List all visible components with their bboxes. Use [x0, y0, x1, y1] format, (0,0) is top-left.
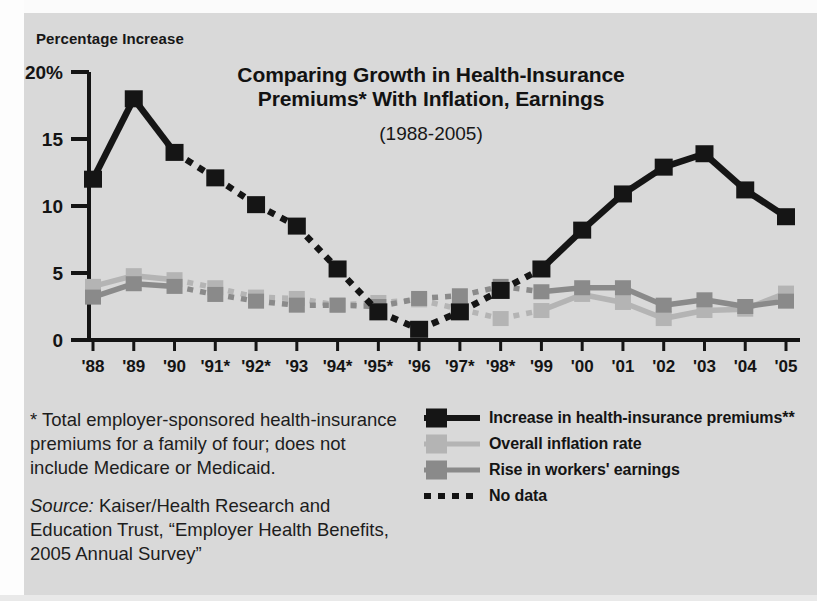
data-point-marker	[410, 321, 428, 338]
data-point-marker	[206, 169, 224, 186]
x-tick-label: '04	[734, 357, 757, 376]
data-point-marker	[329, 260, 347, 277]
x-tick-label: '90	[163, 357, 186, 376]
legend-item[interactable]: No data	[424, 484, 799, 507]
y-tick-label: 5	[52, 263, 63, 284]
data-point-marker	[493, 311, 509, 326]
x-tick-label: '99	[530, 357, 553, 376]
x-tick-label: '05	[775, 357, 798, 376]
legend-item[interactable]: Rise in workers' earnings	[424, 458, 799, 481]
x-tick-label: '93	[285, 357, 308, 376]
y-tick-label: 20%	[25, 62, 63, 83]
legend-label: Rise in workers' earnings	[489, 461, 680, 479]
legend-square-icon	[426, 434, 447, 453]
footnote-text: * Total employer-sponsored health-insura…	[30, 408, 405, 480]
source-label: Source:	[30, 495, 94, 516]
series-inflation	[85, 268, 794, 326]
legend-swatch	[424, 486, 480, 506]
legend-label: Overall inflation rate	[489, 435, 642, 453]
x-tick-label: '96	[408, 357, 431, 376]
legend-square-icon	[426, 460, 447, 479]
chart-legend: Increase in health-insurance premiums**O…	[424, 406, 799, 510]
data-point-marker	[452, 288, 468, 303]
x-tick-label: '00	[571, 357, 594, 376]
source-text: Source: Kaiser/Health Research and Educa…	[30, 494, 405, 566]
data-point-marker	[736, 181, 754, 198]
legend-label: No data	[489, 487, 547, 505]
data-point-marker	[167, 279, 183, 294]
x-tick-label: '92*	[241, 357, 271, 376]
x-tick-label: '03	[693, 357, 716, 376]
data-point-marker	[369, 303, 387, 320]
data-point-marker	[533, 284, 549, 299]
x-tick-label: '94*	[323, 357, 353, 376]
data-point-marker	[125, 90, 143, 107]
data-point-marker	[695, 145, 713, 162]
data-point-marker	[166, 144, 184, 161]
x-tick-label: '02	[652, 357, 675, 376]
x-tick-label: '88	[82, 357, 105, 376]
data-point-marker	[615, 280, 631, 295]
series-segment	[93, 99, 134, 179]
data-point-marker	[288, 218, 306, 235]
data-point-marker	[330, 298, 346, 313]
data-point-marker	[696, 292, 712, 307]
y-tick-label: 10	[42, 196, 63, 217]
data-point-marker	[574, 280, 590, 295]
data-point-marker	[248, 294, 264, 309]
data-point-marker	[614, 185, 632, 202]
data-point-marker	[777, 208, 795, 225]
data-point-marker	[411, 291, 427, 306]
x-tick-label: '89	[122, 357, 145, 376]
legend-item[interactable]: Overall inflation rate	[424, 432, 799, 455]
data-point-marker	[84, 171, 102, 188]
y-tick-label: 0	[52, 330, 63, 351]
dotted-line-icon	[424, 493, 480, 499]
legend-swatch	[424, 460, 480, 480]
data-point-marker	[533, 303, 549, 318]
legend-item[interactable]: Increase in health-insurance premiums**	[424, 406, 799, 429]
data-point-marker	[656, 311, 672, 326]
notes-block: * Total employer-sponsored health-insura…	[30, 408, 405, 580]
legend-swatch	[424, 434, 480, 454]
x-tick-label: '95*	[364, 357, 394, 376]
data-point-marker	[85, 290, 101, 305]
y-tick-label: 15	[42, 129, 64, 150]
data-point-marker	[126, 276, 142, 291]
data-point-marker	[289, 298, 305, 313]
chart-figure: Percentage Increase Comparing Growth in …	[0, 0, 817, 601]
x-tick-label: '98*	[486, 357, 516, 376]
data-point-marker	[492, 282, 510, 299]
x-tick-label: '97*	[445, 357, 475, 376]
data-point-marker	[573, 222, 591, 239]
x-tick-label: '91*	[201, 357, 231, 376]
data-point-marker	[655, 159, 673, 176]
data-point-marker	[451, 303, 469, 320]
x-tick-label: '01	[611, 357, 634, 376]
data-point-marker	[615, 295, 631, 310]
data-point-marker	[532, 260, 550, 277]
data-point-marker	[656, 298, 672, 313]
data-point-marker	[737, 299, 753, 314]
data-point-marker	[247, 196, 265, 213]
legend-square-icon	[426, 408, 447, 427]
legend-label: Increase in health-insurance premiums**	[489, 409, 795, 427]
data-point-marker	[778, 294, 794, 309]
data-point-marker	[207, 287, 223, 302]
legend-swatch	[424, 408, 480, 428]
